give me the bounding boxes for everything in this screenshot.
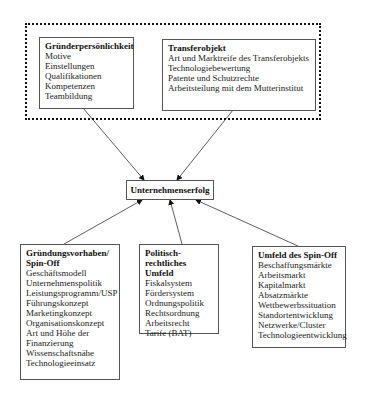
- gruenderpersoenlichkeit-box: Gründerpersönlichkeit Motive Einstellung…: [39, 37, 134, 109]
- umfeld-spinoff-box: Umfeld des Spin-Off Beschaffungsmärkte A…: [252, 246, 346, 348]
- list-item: Arbeitsrecht: [145, 318, 213, 328]
- list-item: Kompetenzen: [45, 81, 128, 91]
- list-item: Fördersystem: [145, 288, 213, 298]
- box-title: Gründerpersönlichkeit: [45, 41, 128, 51]
- box-title-line2: Umfeld: [145, 268, 213, 278]
- box-title: Umfeld des Spin-Off: [258, 250, 340, 260]
- list-item: Rechtsordnung: [145, 308, 213, 318]
- list-item: Organisationskonzept: [26, 318, 114, 328]
- arrow-umfeld-to-erfolg: [196, 200, 298, 246]
- list-item: Art und Höhe der: [26, 328, 114, 338]
- list-item: Teambildung: [45, 91, 128, 101]
- box-title: Transferobjekt: [168, 43, 310, 53]
- list-item: Patente und Schutzrechte: [168, 73, 310, 83]
- list-item: Ordnungspolitik: [145, 298, 213, 308]
- diagram-canvas: Gründerpersönlichkeit Motive Einstellung…: [0, 0, 368, 396]
- unternehmenserfolg-box: Unternehmenserfolg: [126, 180, 214, 200]
- box-title: Unternehmenserfolg: [131, 185, 210, 195]
- list-item: Absatzmärkte: [258, 290, 340, 300]
- arrow-gruendung-to-erfolg: [64, 200, 142, 244]
- list-item: Beschaffungsmärkte: [258, 260, 340, 270]
- box-title-line1: Gründungsvorhaben/: [26, 248, 114, 258]
- list-item: Art und Marktreife des Transferobjekts: [168, 53, 310, 63]
- list-item: Arbeitsteilung mit dem Mutterinstitut: [168, 83, 310, 93]
- list-item: Wissenschaftsnähe: [26, 348, 114, 358]
- list-item: Technologiebewertung: [168, 63, 310, 73]
- arrow-politik-to-erfolg: [170, 200, 182, 244]
- list-item: Unternehmenspolitik: [26, 278, 114, 288]
- list-item: Standortentwicklung: [258, 310, 340, 320]
- list-item: Motive: [45, 51, 128, 61]
- list-item: Einstellungen: [45, 61, 128, 71]
- list-item: Qualifikationen: [45, 71, 128, 81]
- list-item: Leistungsprogramm/USP: [26, 288, 114, 298]
- box-title-line1: Politisch-rechtliches: [145, 248, 213, 268]
- list-item: Technologieeinsatz: [26, 358, 114, 368]
- list-item: Führungskonzept: [26, 298, 114, 308]
- politisch-rechtliches-umfeld-box: Politisch-rechtliches Umfeld Fiskalsyste…: [139, 244, 219, 334]
- list-item: Arbeitsmarkt: [258, 270, 340, 280]
- arrow-transfer-to-erfolg: [177, 110, 233, 180]
- list-item: Tarife (BAT): [145, 328, 213, 338]
- list-item: Finanzierung: [26, 338, 114, 348]
- list-item: Netzwerke/Cluster: [258, 320, 340, 330]
- list-item: Wettbewerbssituation: [258, 300, 340, 310]
- box-title-line2: Spin-Off: [26, 258, 114, 268]
- list-item: Geschäftsmodell: [26, 268, 114, 278]
- list-item: Technologieentwicklung: [258, 330, 340, 340]
- transferobjekt-box: Transferobjekt Art und Marktreife des Tr…: [162, 39, 316, 111]
- gruendungsvorhaben-box: Gründungsvorhaben/ Spin-Off Geschäftsmod…: [20, 244, 120, 380]
- list-item: Marketingkonzept: [26, 308, 114, 318]
- list-item: Fiskalsystem: [145, 278, 213, 288]
- list-item: Kapitalmarkt: [258, 280, 340, 290]
